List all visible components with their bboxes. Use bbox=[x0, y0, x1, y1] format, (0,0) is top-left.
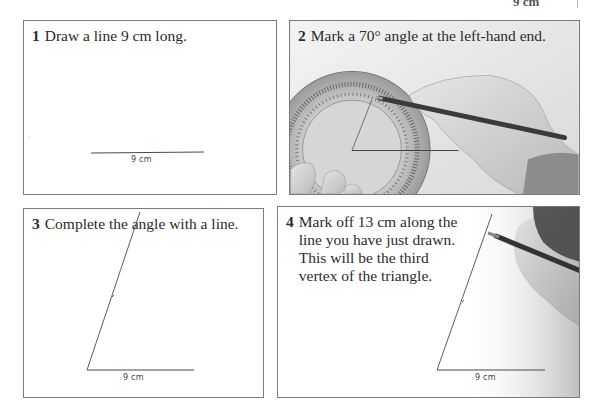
step-number: 2 bbox=[298, 27, 306, 44]
step-panel-3: 3Complete the angle with a line. 9 cm bbox=[23, 208, 264, 398]
step-number: 1 bbox=[32, 27, 40, 44]
step-caption: 3Complete the angle with a line. bbox=[32, 215, 238, 233]
length-label: 9 cm bbox=[131, 155, 152, 164]
length-label: 9 cm bbox=[123, 373, 144, 382]
step-panel-1: 1Draw a line 9 cm long. 9 cm bbox=[23, 20, 277, 195]
angle-figure bbox=[24, 209, 264, 398]
step-panel-2: 2Mark a 70° angle at the left-hand end. bbox=[289, 20, 580, 195]
step-number: 3 bbox=[32, 215, 40, 232]
step-caption: 1Draw a line 9 cm long. bbox=[32, 27, 187, 45]
step-number: 4 bbox=[286, 213, 294, 285]
step-text: Draw a line 9 cm long. bbox=[45, 27, 187, 44]
step-caption: 4 Mark off 13 cm along the line you have… bbox=[286, 213, 486, 285]
length-label: 9 cm bbox=[475, 373, 496, 382]
corner-tick bbox=[577, 0, 578, 8]
step-text: Mark a 70° angle at the left-hand end. bbox=[311, 27, 546, 44]
page-header-fragment: 9 cm bbox=[513, 0, 539, 10]
step-text-line: line you have just drawn. bbox=[299, 231, 458, 249]
step-panel-4: 4 Mark off 13 cm along the line you have… bbox=[277, 206, 580, 398]
line-figure bbox=[24, 21, 277, 195]
step-text-line: Mark off 13 cm along the bbox=[299, 213, 458, 231]
step-text: Complete the angle with a line. bbox=[45, 215, 239, 232]
step-text-line: vertex of the triangle. bbox=[299, 267, 458, 285]
protractor-photo bbox=[290, 21, 579, 194]
step-caption: 2Mark a 70° angle at the left-hand end. bbox=[298, 27, 546, 45]
step-text-line: This will be the third bbox=[299, 249, 458, 267]
